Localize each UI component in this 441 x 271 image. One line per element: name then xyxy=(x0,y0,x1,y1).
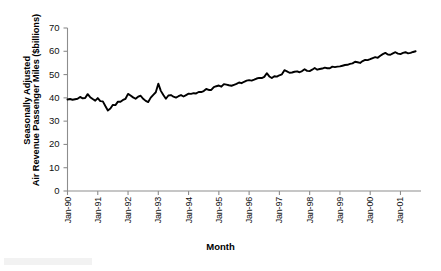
x-tick-label: Jan-99 xyxy=(335,197,345,223)
y-tick-label: 70 xyxy=(24,22,60,33)
y-tick-label: 50 xyxy=(24,69,60,80)
x-axis-title: Month xyxy=(0,241,441,252)
x-tick-label: Jan-96 xyxy=(244,197,254,223)
y-tick-label: 60 xyxy=(24,45,60,56)
page-artifact xyxy=(4,258,92,265)
x-tick-label: Jan-01 xyxy=(395,197,405,223)
x-tick-label: Jan-92 xyxy=(123,197,133,223)
x-tick-label: Jan-97 xyxy=(274,197,284,223)
chart-plot-area xyxy=(0,0,441,271)
x-tick-label: Jan-94 xyxy=(184,197,194,223)
data-series-line xyxy=(68,51,416,110)
y-tick-label: 30 xyxy=(24,115,60,126)
chart-container: Seasonally Adjusted Air Revenue Passenge… xyxy=(0,0,441,271)
y-tick-label: 40 xyxy=(24,92,60,103)
x-tick-label: Jan-95 xyxy=(214,197,224,223)
x-tick-label: Jan-90 xyxy=(63,197,73,223)
y-tick-label: 10 xyxy=(24,162,60,173)
x-tick-label: Jan-00 xyxy=(365,197,375,223)
x-tick-label: Jan-91 xyxy=(93,197,103,223)
x-tick-label: Jan-98 xyxy=(305,197,315,223)
y-tick-label: 20 xyxy=(24,138,60,149)
x-tick-label: Jan-93 xyxy=(153,197,163,223)
y-tick-label: 0 xyxy=(24,185,60,196)
